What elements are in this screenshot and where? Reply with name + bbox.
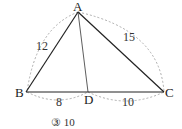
vertex-c-label: C: [165, 85, 174, 100]
side-ab: [26, 12, 78, 92]
vertex-a-label: A: [73, 0, 83, 14]
segment-ad: [78, 12, 88, 92]
length-ab-label: 12: [36, 39, 48, 53]
vertex-b-label: B: [15, 85, 24, 100]
length-dc-label: 10: [122, 95, 134, 109]
vertex-d-label: D: [84, 92, 93, 107]
side-ac: [78, 12, 164, 92]
answer-choice-caption: ③ 10: [51, 116, 75, 129]
length-bd-label: 8: [56, 95, 62, 109]
length-ac-label: 15: [123, 30, 135, 44]
triangle-diagram: A B C D 12 15 8 10: [0, 0, 182, 129]
